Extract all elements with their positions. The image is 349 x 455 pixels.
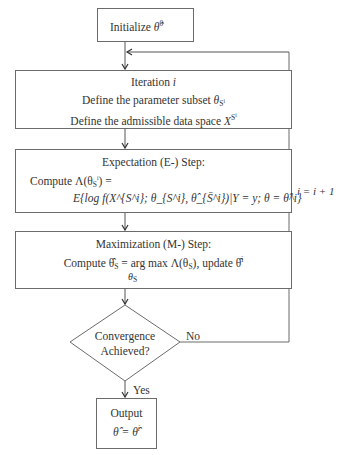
- m-step-line1-sup: i: [241, 255, 243, 264]
- iteration-title-text: Iteration: [131, 76, 173, 88]
- iteration-line1-sub: Si: [219, 99, 225, 108]
- init-text: Initialize: [110, 21, 154, 33]
- output-title: Output: [96, 408, 157, 420]
- m-step-line1-tail: = arg max Λ(θ: [118, 257, 188, 269]
- decision-line1: Convergence: [70, 331, 180, 343]
- e-step-line2: E{log f(X^{S^i}; θ_{S^i}, θ̂_{S̄^i})|Y =…: [73, 193, 302, 205]
- m-step-line1: Compute θ̂S = arg max Λ(θS), update θ̂i: [15, 256, 292, 271]
- e-step-expectation-formula: E{log f(X^{S^i}; θ_{S^i}, θ̂_{S̄^i})|Y =…: [73, 192, 302, 204]
- iteration-var: i: [173, 76, 176, 88]
- output-equation: θ̂ = θ̂: [113, 426, 138, 438]
- argmax-subscript-s: S: [133, 275, 137, 284]
- connector-lines: [0, 0, 349, 455]
- decision-line2: Achieved?: [70, 346, 180, 358]
- output-equation-sup: i: [138, 424, 140, 433]
- init-label: Initialize θ̂0: [110, 20, 163, 34]
- yes-label: Yes: [133, 385, 150, 397]
- init-superscript: 0: [159, 19, 163, 28]
- iteration-line2-sup: Si: [231, 113, 237, 122]
- iteration-line1: Define the parameter subset θSi: [15, 95, 292, 108]
- e-step-line1-sub: S: [93, 180, 97, 189]
- iteration-line2: Define the admissible data space XSi: [15, 112, 292, 127]
- e-step-line1-tail: ) =: [98, 175, 111, 187]
- iteration-line2-text: Define the admissible data space: [70, 115, 224, 127]
- m-step-line1-text: Compute θ̂: [64, 257, 115, 269]
- sub-i: i: [223, 98, 225, 104]
- m-step-line1-update: ), update θ̂: [193, 257, 242, 269]
- iteration-title: Iteration i: [15, 77, 292, 89]
- output-eq: θ̂ = θ̂i: [96, 425, 157, 439]
- sup-i: i: [235, 111, 237, 117]
- loop-increment-label: i = i + 1: [297, 186, 334, 197]
- no-label: No: [186, 331, 200, 343]
- m-step-line2: θS: [128, 272, 137, 284]
- e-step-line1: Compute Λ(θSi) =: [30, 176, 112, 189]
- m-step-title: Maximization (M-) Step:: [15, 239, 292, 251]
- decision-diamond: [70, 305, 180, 381]
- iteration-line1-text: Define the parameter subset: [82, 94, 214, 106]
- e-step-title: Expectation (E-) Step:: [15, 157, 292, 169]
- x-symbol: X: [224, 115, 231, 127]
- e-step-line1-text: Compute Λ(θ: [30, 175, 93, 187]
- output-box: [96, 398, 157, 449]
